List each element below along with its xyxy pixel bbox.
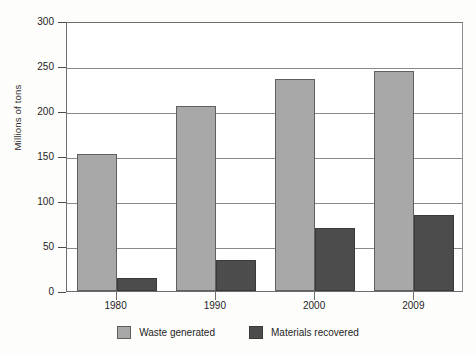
y-axis-label: 50 [10,241,54,252]
y-axis-tick [58,112,66,113]
y-axis-tick [58,202,66,203]
bar-1990-waste-generated [176,106,216,291]
y-axis-tick [58,292,66,293]
x-axis-label-2009: 2009 [383,300,443,311]
bar-2000-waste-generated [275,79,315,291]
legend-item-materials-recovered: Materials recovered [249,326,359,339]
x-axis-label-2000: 2000 [284,300,344,311]
legend-item-waste-generated: Waste generated [117,326,215,339]
bar-1990-materials-recovered [216,260,256,292]
legend-swatch-icon [249,326,263,339]
y-axis-label: 250 [10,61,54,72]
y-axis-tick [58,22,66,23]
bar-2000-materials-recovered [315,228,355,291]
y-axis-label: 200 [10,106,54,117]
y-axis-label: 150 [10,151,54,162]
y-axis-tick [58,67,66,68]
y-axis-label: 300 [10,16,54,27]
x-axis-tick [314,292,315,300]
bar-chart: Millions of tons 050100150200250300 1980… [0,0,476,355]
gridline [67,68,462,69]
legend-label: Materials recovered [271,327,359,338]
x-axis-label-1980: 1980 [86,300,146,311]
x-axis-tick [116,292,117,300]
x-axis-label-1990: 1990 [185,300,245,311]
legend-label: Waste generated [139,327,215,338]
bar-1980-materials-recovered [117,278,157,292]
bar-2009-waste-generated [374,71,414,292]
x-axis-tick [215,292,216,300]
x-axis-tick [413,292,414,300]
bar-2009-materials-recovered [414,215,454,292]
y-axis-tick [58,157,66,158]
legend-swatch-icon [117,326,131,339]
y-axis-label: 0 [10,286,54,297]
y-axis-label: 100 [10,196,54,207]
plot-area [66,22,463,292]
bar-1980-waste-generated [77,154,117,291]
y-axis-tick [58,247,66,248]
chart-legend: Waste generatedMaterials recovered [0,326,476,339]
